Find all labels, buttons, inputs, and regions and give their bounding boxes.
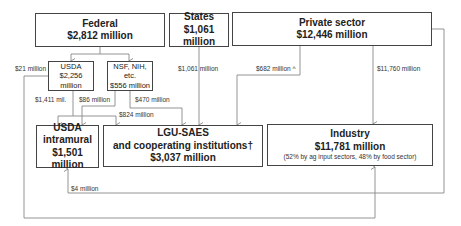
nsf-box: NSF, NIH, etc. $556 million — [107, 61, 153, 91]
nsf-title: NSF, NIH, etc. — [108, 62, 152, 81]
private-sector-box: Private sector $12,446 million — [232, 12, 432, 46]
usda-intramural-box: USDA intramural $1,501 million — [36, 125, 99, 168]
intramural-title: USDA — [53, 122, 81, 135]
federal-value: $2,812 million — [67, 30, 133, 43]
flow-label-usda-industry: $21 million — [15, 65, 46, 72]
flow-label-nsf-lgu: $470 million — [135, 96, 170, 103]
flow-label-nsf-intramural: $86 million — [79, 96, 110, 103]
industry-note: (52% by ag input sectors, 48% by food se… — [284, 153, 417, 161]
intramural-value: $1,501 million — [37, 147, 98, 172]
industry-box: Industry $11,781 million (52% by ag inpu… — [267, 124, 433, 166]
industry-value: $11,781 million — [315, 141, 386, 154]
lgu-value: $3,037 million — [150, 152, 216, 165]
lgu-subtitle: and cooperating institutions† — [113, 140, 253, 153]
flow-label-private-intramural: $4 million — [71, 185, 98, 192]
flow-label-states-lgu: $1,061 million — [178, 65, 218, 72]
usda-title: USDA — [61, 62, 82, 71]
flow-label-usda-lgu: $824 million — [119, 111, 154, 118]
states-box: States $1,061 million — [169, 13, 229, 47]
flow-label-private-industry: $11,760 million — [377, 65, 420, 72]
industry-title: Industry — [330, 128, 369, 141]
private-title: Private sector — [299, 17, 365, 30]
usda-value: $2,256 million — [49, 71, 93, 90]
nsf-value: $556 million — [110, 81, 150, 90]
flow-label-usda-intramural: $1,411 mil. — [35, 96, 66, 103]
states-title: States — [184, 11, 214, 24]
lgu-saes-box: LGU-SAES and cooperating institutions† $… — [103, 125, 263, 167]
usda-box: USDA $2,256 million — [48, 61, 94, 91]
flow-label-private-lgu: $682 million ^ — [256, 65, 296, 72]
private-value: $12,446 million — [296, 29, 367, 42]
lgu-title: LGU-SAES — [157, 127, 209, 140]
federal-box: Federal $2,812 million — [35, 13, 165, 47]
intramural-subtitle: intramural — [43, 134, 92, 147]
states-value: $1,061 million — [170, 24, 228, 49]
federal-title: Federal — [82, 18, 118, 31]
